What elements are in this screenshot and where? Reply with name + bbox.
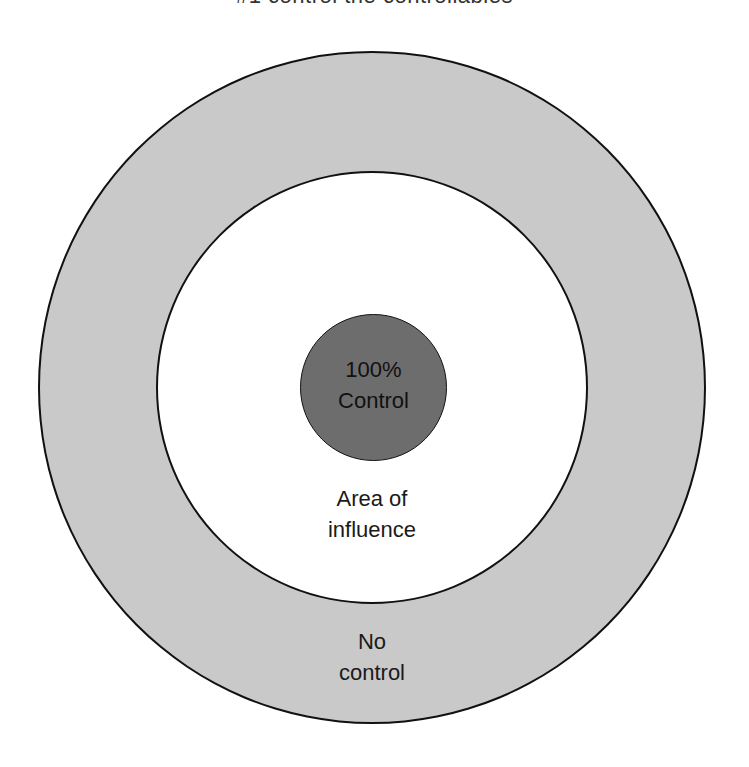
no-control-label: No control [272, 626, 472, 688]
area-of-influence-label: Area of influence [272, 483, 472, 545]
diagram-title: #1 control the controllables [0, 0, 749, 9]
full-control-label-line-1: 100% [300, 354, 447, 385]
full-control-label: 100% Control [300, 354, 447, 416]
no-control-label-line-1: No [272, 626, 472, 657]
no-control-label-line-2: control [272, 657, 472, 688]
full-control-label-line-2: Control [300, 385, 447, 416]
area-of-influence-label-line-1: Area of [272, 483, 472, 514]
area-of-influence-label-line-2: influence [272, 514, 472, 545]
